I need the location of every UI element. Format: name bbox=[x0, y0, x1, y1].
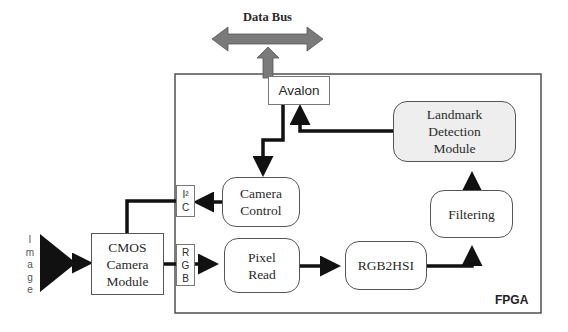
landmark-line-2: Detection bbox=[428, 123, 480, 140]
i2c-port: I² C bbox=[176, 185, 195, 217]
avalon-box[interactable]: Avalon bbox=[268, 76, 330, 105]
image-letter-5: e bbox=[27, 284, 33, 297]
cmos-line-3: Module bbox=[107, 273, 149, 290]
pixel-read-box[interactable]: Pixel Read bbox=[224, 238, 300, 293]
camera-control-line-1: Camera bbox=[240, 185, 282, 202]
filtering-box[interactable]: Filtering bbox=[430, 190, 513, 238]
rgb-line-g: G bbox=[182, 259, 190, 272]
rgb-port: R G B bbox=[176, 244, 195, 286]
i2c-line-2: C bbox=[182, 201, 189, 214]
cmos-line-2: Camera bbox=[107, 256, 149, 273]
image-letter-4: g bbox=[27, 272, 33, 285]
cmos-line-1: CMOS bbox=[108, 239, 146, 256]
rgb-line-r: R bbox=[182, 246, 189, 259]
camera-control-box[interactable]: Camera Control bbox=[222, 177, 300, 227]
data-bus-label: Data Bus bbox=[243, 10, 292, 25]
image-letter-1: I bbox=[29, 234, 32, 247]
image-letter-3: a bbox=[27, 259, 33, 272]
rgb-line-b: B bbox=[182, 272, 189, 285]
pixel-read-line-2: Read bbox=[248, 266, 276, 283]
rgb2hsi-box[interactable]: RGB2HSI bbox=[345, 241, 427, 290]
fpga-label: FPGA bbox=[495, 293, 528, 307]
pixel-read-line-1: Pixel bbox=[248, 249, 276, 266]
landmark-line-3: Module bbox=[434, 140, 476, 157]
image-label: I m a g e bbox=[24, 234, 36, 297]
rgb2hsi-label: RGB2HSI bbox=[358, 257, 414, 274]
camera-control-line-2: Control bbox=[240, 202, 281, 219]
image-letter-2: m bbox=[26, 247, 34, 260]
cmos-camera-module[interactable]: CMOS Camera Module bbox=[91, 233, 164, 295]
rgb2hsi-to-filtering-arrow bbox=[427, 252, 472, 266]
i2c-to-cmos-line bbox=[127, 201, 176, 233]
landmark-detection-module[interactable]: Landmark Detection Module bbox=[393, 101, 516, 162]
image-triangle-icon bbox=[40, 234, 76, 292]
avalon-label: Avalon bbox=[278, 82, 319, 99]
avalon-to-camera-control-arrow bbox=[263, 103, 283, 170]
i2c-line-1: I² bbox=[182, 188, 188, 201]
landmark-to-avalon-arrow bbox=[300, 111, 393, 131]
filtering-label: Filtering bbox=[448, 206, 495, 223]
landmark-line-1: Landmark bbox=[427, 106, 482, 123]
